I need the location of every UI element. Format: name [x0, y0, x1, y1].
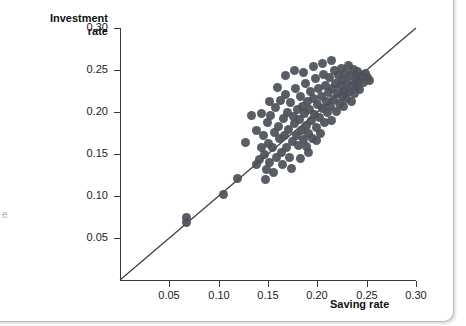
data-point: [285, 153, 294, 162]
data-point: [252, 126, 261, 135]
data-point: [327, 56, 336, 65]
data-point: [261, 175, 270, 184]
data-point: [287, 164, 296, 173]
data-point: [327, 116, 336, 125]
data-point: [268, 143, 277, 152]
data-point: [269, 168, 278, 177]
scatter-chart: Investment rate 0.050.100.150.200.250.30…: [0, 0, 466, 326]
data-point: [290, 66, 299, 75]
data-point: [299, 68, 308, 77]
data-point: [318, 59, 327, 68]
data-point: [257, 109, 266, 118]
data-point: [302, 142, 311, 151]
data-point: [266, 111, 275, 120]
data-point: [219, 190, 228, 199]
data-point: [312, 136, 321, 145]
data-point: [260, 150, 269, 159]
data-point: [278, 160, 287, 169]
data-point: [241, 138, 250, 147]
data-point: [233, 174, 242, 183]
data-points-layer: [0, 0, 466, 326]
x-axis-title: Saving rate: [330, 298, 440, 310]
data-point: [274, 122, 283, 131]
data-point: [247, 111, 256, 120]
data-point: [281, 71, 290, 80]
data-point: [296, 154, 305, 163]
data-point: [309, 62, 318, 71]
data-point: [365, 76, 374, 85]
data-point: [182, 213, 191, 222]
